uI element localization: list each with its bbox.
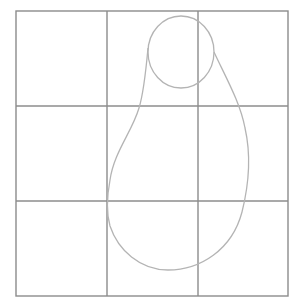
guide-grid <box>16 11 288 296</box>
pear-body-outline <box>107 48 248 270</box>
grid-border <box>16 11 288 296</box>
head-circle <box>148 16 214 88</box>
sketch-canvas <box>0 0 304 307</box>
